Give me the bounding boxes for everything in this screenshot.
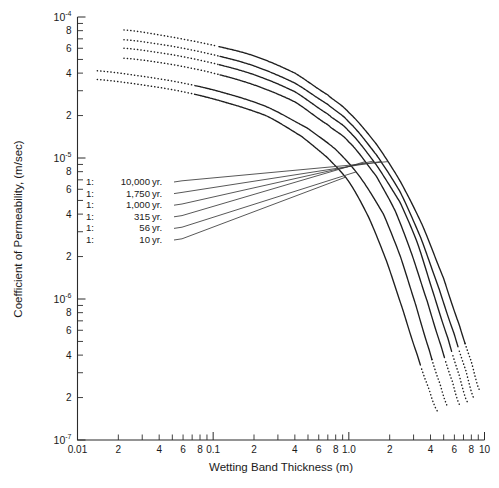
legend-value-5: 10 [139,234,150,245]
y-tick-label-minor: 4 [66,68,72,79]
y-tick-label-minor: 2 [66,251,72,262]
x-axis-title: Wetting Band Thickness (m) [209,461,353,473]
x-tick-label-minor: 4 [292,444,298,455]
y-tick-label-minor: 8 [66,307,72,318]
y-tick-label-minor: 2 [66,110,72,121]
x-tick-label-minor: 8 [469,444,475,455]
legend-unit-5: yr. [152,234,162,245]
y-tick-label-minor: 4 [66,350,72,361]
legend-ratio-5: 1: [86,234,94,245]
legend-ratio-3: 1: [86,211,94,222]
legend-unit-3: yr. [152,211,162,222]
legend-value-2: 1,000 [126,199,150,210]
legend-unit-4: yr. [152,222,162,233]
x-tick-label: 1.0 [342,444,356,455]
legend-unit-0: yr. [152,176,162,187]
legend-unit-1: yr. [152,188,162,199]
y-tick-label-minor: 6 [66,325,72,336]
x-tick-label-minor: 6 [180,444,186,455]
x-tick-label-minor: 4 [428,444,434,455]
chart-svg: 0.010.11.01024682468246810-410-510-610-7… [0,0,499,488]
x-tick-label-minor: 6 [452,444,458,455]
legend-value-4: 56 [139,222,150,233]
x-tick-label: 0.1 [206,444,220,455]
legend-value-1: 1,750 [126,188,150,199]
x-tick-label: 10 [479,444,491,455]
y-tick-label-minor: 4 [66,209,72,220]
legend-ratio-0: 1: [86,176,94,187]
y-axis-title: Coefficient of Permeability, (m/sec) [12,140,24,317]
x-tick-label-minor: 6 [316,444,322,455]
y-tick-label-minor: 6 [66,184,72,195]
permeability-chart: 0.010.11.01024682468246810-410-510-610-7… [0,0,499,488]
x-tick-label-minor: 2 [387,444,393,455]
legend-ratio-2: 1: [86,199,94,210]
x-tick-label-minor: 4 [156,444,162,455]
y-tick-label-minor: 8 [66,25,72,36]
legend-value-0: 10,000 [121,176,150,187]
y-tick-label-minor: 6 [66,43,72,54]
x-tick-label-minor: 8 [333,444,339,455]
x-tick-label-minor: 2 [116,444,122,455]
y-tick-label-minor: 8 [66,166,72,177]
legend-ratio-4: 1: [86,222,94,233]
y-tick-label-minor: 2 [66,392,72,403]
x-tick-label-minor: 8 [197,444,203,455]
x-tick-label: 0.01 [68,444,88,455]
x-tick-label-minor: 2 [251,444,257,455]
legend-value-3: 315 [134,211,150,222]
legend-ratio-1: 1: [86,188,94,199]
legend-unit-2: yr. [152,199,162,210]
